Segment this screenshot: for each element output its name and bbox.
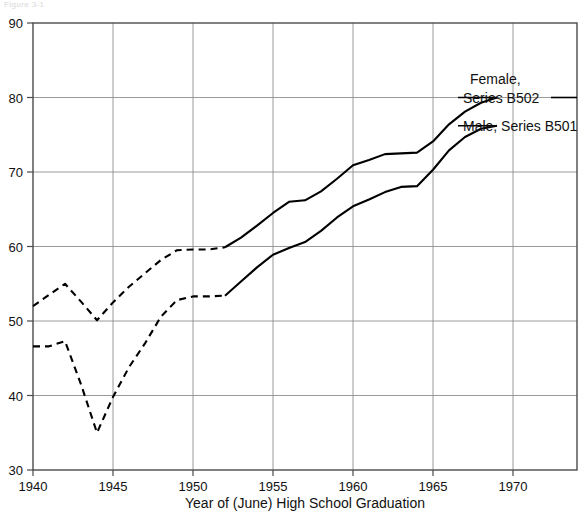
female-series-label-line2: Series B502 xyxy=(463,90,539,106)
x-tick-label-1955: 1955 xyxy=(259,479,288,494)
x-tick-label-1965: 1965 xyxy=(419,479,448,494)
x-axis-tick-labels: 1940194519501955196019651970 xyxy=(19,479,528,494)
female-series-annotation: Female, Series B502 xyxy=(458,71,577,106)
y-tick-label-90: 90 xyxy=(9,16,23,31)
y-tick-label-40: 40 xyxy=(9,389,23,404)
x-tick-label-1960: 1960 xyxy=(339,479,368,494)
x-tick-label-1970: 1970 xyxy=(499,479,528,494)
x-tick-label-1940: 1940 xyxy=(19,479,48,494)
series-line-female-dashed xyxy=(33,247,225,320)
tick-marks xyxy=(27,23,513,476)
x-tick-label-1950: 1950 xyxy=(179,479,208,494)
x-axis-title: Year of (June) High School Graduation xyxy=(185,495,425,511)
series-line-male-dashed xyxy=(33,296,225,433)
male-series-annotation: Male, Series B501 xyxy=(458,118,578,134)
y-tick-label-50: 50 xyxy=(9,314,23,329)
x-tick-label-1945: 1945 xyxy=(99,479,128,494)
y-tick-label-80: 80 xyxy=(9,91,23,106)
y-axis-tick-labels: 30405060708090 xyxy=(9,16,23,478)
series-lines xyxy=(33,98,497,433)
female-series-label-line1: Female, xyxy=(470,71,521,87)
y-tick-label-70: 70 xyxy=(9,165,23,180)
line-chart: 30405060708090 1940194519501955196019651… xyxy=(0,0,586,517)
y-tick-label-30: 30 xyxy=(9,463,23,478)
series-line-male-solid xyxy=(225,126,497,296)
male-series-label-line1: Male, Series B501 xyxy=(463,118,578,134)
chart-figure: 30405060708090 1940194519501955196019651… xyxy=(0,0,586,517)
y-tick-label-60: 60 xyxy=(9,240,23,255)
